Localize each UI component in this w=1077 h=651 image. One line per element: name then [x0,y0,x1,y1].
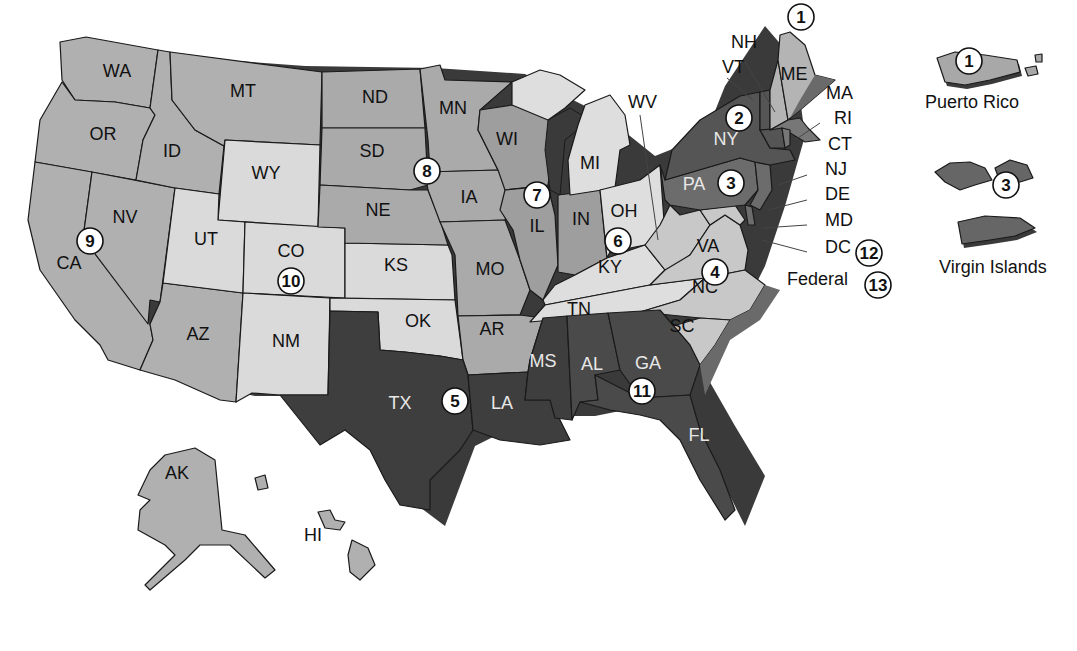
label-wi: WI [496,129,518,149]
label-ga: GA [635,353,661,373]
badge-circuit-10[interactable]: 10 [278,268,304,294]
badge-circuit-11[interactable]: 11 [629,378,655,404]
badge-circuit-4[interactable]: 4 [702,259,728,285]
label-pa: PA [683,174,706,194]
label-hi: HI [304,525,322,545]
label-de: DE [825,184,850,204]
label-ny: NY [713,129,738,149]
svg-text:10: 10 [282,272,301,291]
label-me: ME [781,64,808,84]
label-az: AZ [186,324,209,344]
label-tn: TN [567,299,591,319]
svg-text:11: 11 [633,382,651,401]
label-sd: SD [359,141,384,161]
label-vt: VT [722,57,745,77]
state-wy[interactable] [218,140,320,227]
svg-text:13: 13 [869,276,888,295]
badge-circuit-3[interactable]: 3 [718,170,744,196]
state-hi-islands[interactable] [318,510,345,530]
label-ia: IA [460,187,477,207]
svg-text:6: 6 [613,232,622,251]
svg-text:7: 7 [532,186,541,205]
label-nh: NH [731,32,757,52]
circuit-map: WA OR ID MT WY CA NV UT CO AZ NM ND SD N… [0,0,1077,651]
svg-text:1: 1 [796,8,805,27]
label-wa: WA [103,61,131,81]
badge-circuit-1[interactable]: 1 [788,4,814,30]
svg-text:8: 8 [422,162,431,181]
label-fl: FL [688,425,709,445]
label-sc: SC [669,316,694,336]
label-ar: AR [479,319,504,339]
svg-text:2: 2 [734,109,743,128]
label-ne: NE [365,200,390,220]
badge-circuit-5[interactable]: 5 [442,388,468,414]
label-or: OR [90,124,117,144]
badge-circuit-7[interactable]: 7 [524,182,550,208]
badge-circuit-8[interactable]: 8 [414,158,440,184]
virgin-islands-inset: Virgin Islands [935,160,1047,277]
badge-circuit-13[interactable]: 13 [865,272,891,298]
label-nm: NM [272,331,300,351]
label-id: ID [163,141,181,161]
badge-circuit-1-pr[interactable]: 1 [956,48,982,74]
label-il: IL [529,216,544,236]
state-hi-big[interactable] [348,540,375,580]
label-ma: MA [826,83,853,103]
badge-circuit-2[interactable]: 2 [726,105,752,131]
label-puerto-rico: Puerto Rico [925,92,1019,112]
label-ut: UT [194,229,218,249]
label-ks: KS [384,255,408,275]
label-in: IN [572,209,590,229]
svg-text:3: 3 [726,174,735,193]
label-la: LA [491,393,513,413]
label-md: MD [825,210,853,230]
label-mn: MN [439,98,467,118]
state-hi-kauai[interactable] [255,475,268,490]
badge-circuit-6[interactable]: 6 [605,228,631,254]
label-mo: MO [476,259,505,279]
label-federal: Federal [787,269,848,289]
label-wv: WV [628,92,657,112]
label-mi: MI [580,153,600,173]
label-ms: MS [530,351,557,371]
state-ak[interactable] [138,448,275,590]
svg-text:3: 3 [1001,176,1010,195]
svg-text:12: 12 [860,244,879,263]
badge-circuit-9[interactable]: 9 [77,228,103,254]
svg-text:5: 5 [450,392,459,411]
svg-text:1: 1 [964,52,973,71]
label-nd: ND [362,87,388,107]
label-mt: MT [230,81,256,101]
label-ok: OK [405,311,431,331]
label-dc: DC [825,237,851,257]
virgin-islands-st-thomas[interactable] [935,162,992,190]
label-ky: KY [598,257,622,277]
label-wy: WY [252,163,281,183]
label-va: VA [697,236,720,256]
badge-circuit-12[interactable]: 12 [856,240,882,266]
label-ca: CA [56,253,81,273]
label-ri: RI [834,108,852,128]
svg-text:4: 4 [710,263,720,282]
label-ct: CT [828,134,852,154]
label-tx: TX [388,393,411,413]
label-ak: AK [165,463,189,483]
badge-circuit-3-vi[interactable]: 3 [993,172,1019,198]
svg-text:9: 9 [85,232,94,251]
puerto-rico-inset: Puerto Rico [925,52,1042,112]
label-oh: OH [611,201,638,221]
label-al: AL [581,354,603,374]
label-virgin-islands: Virgin Islands [939,257,1047,277]
label-nj: NJ [825,159,847,179]
label-co: CO [278,241,305,261]
label-nv: NV [112,207,137,227]
